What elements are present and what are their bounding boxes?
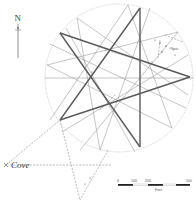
north-label: N: [15, 13, 22, 23]
scale-tick-2: 200: [145, 179, 151, 183]
scale-bar: 0 100 200 500 Feet: [117, 179, 192, 192]
cove-label: Cove: [11, 160, 30, 170]
cove-marker-icon: [4, 163, 8, 167]
north-arrow-icon: N: [15, 13, 22, 58]
star-diagram-svg: N: [0, 0, 196, 204]
feature-label: Spur: [171, 47, 179, 51]
scale-tick-1: 100: [131, 179, 137, 183]
scale-unit: Feet: [155, 188, 162, 192]
feature-points: [84, 39, 175, 184]
scale-tick-3: 500: [186, 179, 192, 183]
thin-star-lines: [45, 5, 193, 152]
bold-star: [60, 8, 190, 147]
diagram-canvas: N: [0, 0, 196, 204]
scale-tick-0: 0: [117, 179, 119, 183]
